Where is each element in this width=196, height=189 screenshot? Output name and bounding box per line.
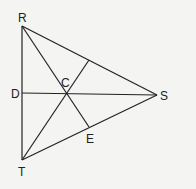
median-tm xyxy=(22,60,89,160)
median-ds xyxy=(22,93,157,95)
label-d: D xyxy=(11,87,20,101)
side-st xyxy=(22,95,157,160)
label-c: C xyxy=(61,76,70,90)
median-re xyxy=(22,26,89,127)
triangle-diagram: R D C S E T xyxy=(0,0,196,189)
label-s: S xyxy=(160,89,168,103)
label-e: E xyxy=(86,132,94,146)
label-r: R xyxy=(18,11,27,25)
side-rs xyxy=(22,26,157,95)
label-t: T xyxy=(18,165,26,179)
